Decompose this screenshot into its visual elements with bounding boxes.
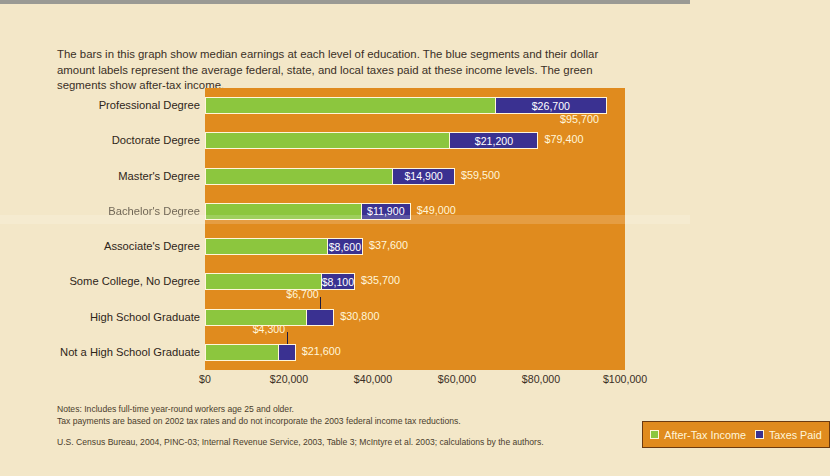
x-axis-tick-1: $20,000 — [270, 373, 308, 385]
value-axis-ticks: $0$20,000$40,000$60,000$80,000$100,000 — [205, 373, 625, 389]
taxes-paid-segment: $8,600 — [327, 238, 363, 255]
tax-value-label: $21,200 — [475, 135, 513, 147]
category-label-7: Not a High School Graduate — [40, 346, 200, 358]
tax-label-leader-line — [320, 297, 321, 309]
stacked-bar: $8,600 — [205, 238, 363, 255]
total-earnings-label: $35,700 — [361, 274, 400, 286]
bar-row: $11,900$49,000 — [205, 194, 625, 229]
category-label-3: Bachelor's Degree — [40, 205, 200, 217]
notes-line-1: Notes: Includes full-time year-round wor… — [57, 404, 657, 416]
bar-row: $8,600$37,600 — [205, 229, 625, 264]
category-label-6: High School Graduate — [40, 311, 200, 323]
intro-paragraph: The bars in this graph show median earni… — [57, 47, 637, 93]
stacked-bar: $8,100 — [205, 273, 355, 290]
stacked-bar: $14,900 — [205, 168, 455, 185]
after-tax-income-segment — [205, 238, 327, 255]
category-label-0: Professional Degree — [40, 99, 200, 111]
after-tax-income-segment — [205, 203, 361, 220]
legend-item-after-tax-income: After-Tax Income — [650, 429, 746, 441]
x-axis-tick-5: $100,000 — [603, 373, 647, 385]
taxes-paid-segment: $14,900 — [392, 168, 455, 185]
total-earnings-label: $21,600 — [302, 345, 341, 357]
taxes-paid-segment: $21,200 — [449, 132, 538, 149]
category-label-5: Some College, No Degree — [40, 275, 200, 287]
tax-value-label-outside: $4,300 — [253, 323, 285, 335]
bar-rows: $26,700$95,700$21,200$79,400$14,900$59,5… — [205, 88, 625, 370]
bar-row: $21,200$79,400 — [205, 123, 625, 158]
chart-source: U.S. Census Bureau, 2004, PINC-03; Inter… — [57, 437, 657, 447]
bar-row: $14,900$59,500 — [205, 159, 625, 194]
taxes-paid-segment — [306, 309, 334, 326]
bar-row: $26,700$95,700 — [205, 88, 625, 123]
tax-value-label: $11,900 — [367, 205, 405, 217]
legend-label-taxes-paid: Taxes Paid — [769, 429, 822, 441]
after-tax-income-segment — [205, 97, 495, 114]
after-tax-income-segment — [205, 132, 449, 149]
stacked-bar — [205, 344, 296, 361]
legend-item-taxes-paid: Taxes Paid — [755, 429, 822, 441]
tax-value-label: $26,700 — [532, 100, 570, 112]
notes-line-2: Tax payments are based on 2002 tax rates… — [57, 416, 657, 428]
total-earnings-label: $37,600 — [369, 239, 408, 251]
legend-swatch-blue-icon — [755, 430, 764, 439]
x-axis-tick-0: $0 — [199, 373, 211, 385]
category-axis-labels: Professional DegreeDoctorate DegreeMaste… — [40, 88, 200, 370]
bar-row: $8,100$35,700 — [205, 264, 625, 299]
tax-label-leader-line — [287, 332, 288, 344]
category-label-4: Associate's Degree — [40, 240, 200, 252]
x-axis-tick-2: $40,000 — [354, 373, 392, 385]
category-label-2: Master's Degree — [40, 170, 200, 182]
tax-value-label: $8,600 — [329, 241, 361, 253]
after-tax-income-segment — [205, 344, 278, 361]
total-earnings-label: $49,000 — [417, 204, 456, 216]
tax-value-label-outside: $6,700 — [286, 288, 318, 300]
total-earnings-label: $59,500 — [461, 169, 500, 181]
tax-value-label: $8,100 — [322, 276, 354, 288]
taxes-paid-segment: $8,100 — [321, 273, 355, 290]
taxes-paid-segment: $26,700 — [495, 97, 607, 114]
taxes-paid-segment: $11,900 — [361, 203, 411, 220]
chart-notes: Notes: Includes full-time year-round wor… — [57, 404, 657, 427]
category-label-1: Doctorate Degree — [40, 134, 200, 146]
chart-legend: After-Tax Income Taxes Paid — [642, 421, 830, 448]
stacked-bar: $26,700 — [205, 97, 607, 114]
after-tax-income-segment — [205, 168, 392, 185]
page-top-rule — [0, 0, 690, 4]
tax-value-label: $14,900 — [404, 170, 442, 182]
legend-label-after-tax-income: After-Tax Income — [664, 429, 746, 441]
taxes-paid-segment — [278, 344, 296, 361]
total-earnings-label: $30,800 — [340, 310, 379, 322]
stacked-bar: $21,200 — [205, 132, 538, 149]
x-axis-tick-4: $80,000 — [522, 373, 560, 385]
bar-row: $4,300$21,600 — [205, 335, 625, 370]
chart-plot-area: $26,700$95,700$21,200$79,400$14,900$59,5… — [205, 88, 625, 370]
x-axis-tick-3: $60,000 — [438, 373, 476, 385]
total-earnings-label: $79,400 — [544, 133, 583, 145]
stacked-bar: $11,900 — [205, 203, 411, 220]
